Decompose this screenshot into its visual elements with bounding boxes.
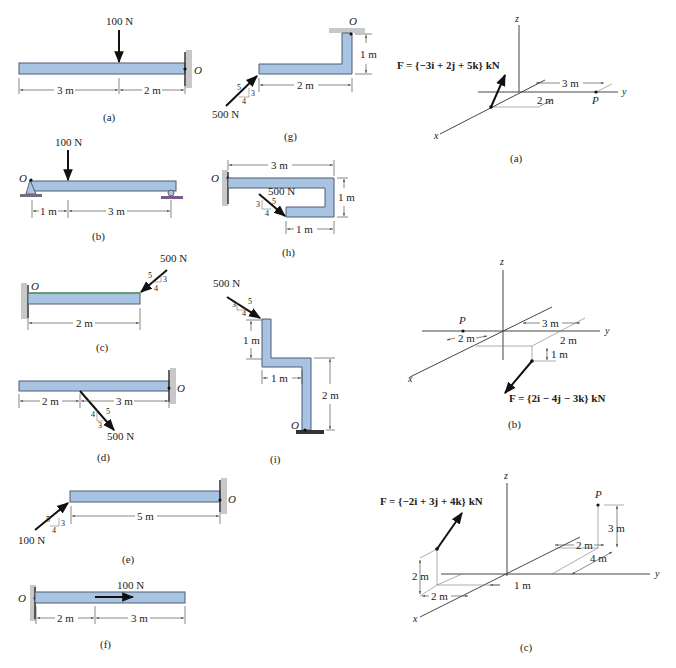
dimension-label: 2 m [412, 570, 429, 582]
beam [70, 491, 220, 502]
beam [28, 293, 140, 304]
svg-text:5: 5 [237, 83, 241, 92]
figure-left-e: O 100 N 5 3 4 5 m (e) [18, 478, 236, 566]
svg-text:4: 4 [91, 410, 95, 419]
point-label: O [291, 419, 299, 431]
axis-label-z: z [499, 256, 504, 267]
force-label: F = {−3i + 2j + 5k} kN [397, 59, 500, 71]
dimension-label: 3 m [562, 77, 579, 89]
figure-left-a: O 100 N 3 m 2 m (a) [19, 15, 202, 124]
axis-label-y: y [604, 325, 610, 336]
dimension-label: 1 m [40, 205, 57, 217]
dimension-label: 3 m [108, 205, 125, 217]
axis-label-y: y [621, 86, 627, 97]
axis-label-y: y [654, 568, 660, 579]
point-label: P [591, 94, 599, 106]
axis-label-z: z [503, 470, 508, 481]
point-label: O [228, 493, 236, 505]
beam [30, 181, 176, 191]
figure-middle-i: O 500 N 5 3 4 1 m 1 m 2 m (i) [213, 277, 339, 466]
force-label: 500 N [107, 430, 134, 442]
caption: (g) [284, 130, 297, 143]
svg-text:5: 5 [148, 271, 152, 280]
x-axis [420, 537, 580, 617]
beam [228, 178, 334, 217]
point-label: O [177, 382, 185, 394]
force-label: 100 N [117, 579, 144, 591]
svg-text:4: 4 [265, 209, 269, 218]
point-label: O [349, 15, 357, 27]
svg-text:3: 3 [98, 421, 102, 430]
svg-text:4: 4 [242, 309, 246, 318]
caption: (a) [103, 111, 116, 124]
point-label: P [594, 488, 602, 500]
wall-support-icon [21, 283, 27, 319]
point-label: O [31, 280, 39, 292]
dimension-label: 2 m [76, 317, 93, 329]
force-label: 500 N [212, 108, 239, 120]
svg-text:5: 5 [248, 297, 252, 306]
svg-text:5: 5 [272, 197, 276, 206]
force-label: 500 N [268, 185, 295, 197]
point-label: O [18, 592, 26, 604]
caption: (e) [122, 553, 135, 566]
caption: (d) [97, 451, 110, 464]
wall-support-icon [170, 368, 176, 404]
dimension-label: 3 m [57, 84, 74, 96]
floor-support-icon [296, 430, 324, 434]
svg-text:5: 5 [106, 407, 110, 416]
force-label: 500 N [213, 277, 240, 289]
caption: (i) [270, 453, 281, 466]
dimension-label: 1 m [243, 334, 260, 346]
point-label: O [19, 172, 27, 184]
dimension-label: 1 m [514, 579, 531, 591]
dimension-label: 1 m [296, 223, 313, 235]
point-P [596, 503, 599, 506]
svg-text:3: 3 [251, 89, 255, 98]
wall-support-icon [186, 50, 192, 88]
svg-text:5: 5 [46, 515, 50, 524]
dimension-label: 3 m [116, 395, 133, 407]
caption: (a) [510, 152, 523, 165]
figure-right-b: z y x P 2 m 3 m 2 m 1 m F = {2i − 4j − 3… [407, 256, 610, 431]
force-arrow-icon [505, 361, 532, 393]
dimension-label: 3 m [542, 317, 559, 329]
caption: (b) [508, 418, 521, 431]
force-label: F = {2i − 4j − 3k} kN [509, 392, 605, 404]
dimension-label: 2 m [57, 612, 74, 624]
dimension-label: 2 m [297, 79, 314, 91]
force-arrow-icon [437, 513, 462, 549]
point-label: P [458, 314, 466, 326]
svg-text:3: 3 [256, 200, 260, 209]
dimension-label: 2 m [322, 389, 339, 401]
figure-middle-g: O 500 N 5 3 4 2 m 1 m (g) [212, 15, 377, 143]
point-label: O [211, 172, 219, 184]
dimension-label: 3 m [131, 612, 148, 624]
dimension-label: 2 m [576, 539, 593, 551]
dimension-label: 3 m [608, 522, 625, 534]
point-label: O [194, 64, 202, 76]
dimension-label: 1 m [338, 191, 355, 203]
svg-text:3: 3 [232, 300, 236, 309]
figure-middle-h: O 500 N 5 3 4 3 m 1 m 1 m (h) [211, 159, 355, 259]
dimension-label: 4 m [590, 552, 607, 564]
dimension-label: 2 m [560, 334, 577, 346]
beam [259, 33, 352, 74]
wall-support-icon [221, 478, 227, 514]
dimension-label: 1 m [551, 348, 568, 360]
figure-canvas: O 100 N 3 m 2 m (a) O 100 N 1 m 3 m (b) … [0, 0, 676, 668]
wall-support-icon [222, 170, 228, 206]
dimension-label: 2 m [458, 332, 475, 344]
dimension-label: 2 m [144, 84, 161, 96]
ceiling-support-icon [329, 28, 365, 33]
dimension-label: 3 m [271, 159, 288, 171]
figure-left-d: O 500 N 5 4 3 2 m 3 m (d) [19, 368, 185, 464]
axis-label-x: x [407, 373, 413, 384]
caption: (h) [282, 246, 295, 259]
roller-support-icon [168, 190, 174, 196]
beam [19, 63, 185, 74]
dimension-label: 1 m [271, 372, 288, 384]
figure-left-c: O 500 N 5 3 4 2 m (c) [21, 252, 187, 354]
dimension-label: 1 m [360, 48, 377, 60]
axis-label-x: x [412, 613, 418, 624]
